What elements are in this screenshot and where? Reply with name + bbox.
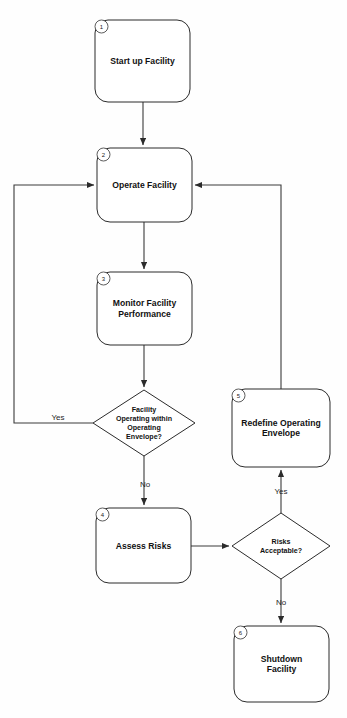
node-label-line: Redefine Operating	[241, 418, 320, 428]
process-node-1[interactable]: Start up Facility1	[95, 20, 190, 102]
decision-shape	[93, 390, 195, 456]
node-label-line: Envelope	[262, 428, 300, 438]
process-node-3[interactable]: Monitor FacilityPerformance3	[97, 272, 192, 345]
decision-label-line: Operating	[127, 424, 161, 432]
flowchart-svg: Start up Facility1Operate Facility2Monit…	[0, 0, 347, 718]
edge-label-yes-e4: Yes	[51, 413, 64, 422]
node-label-line: Performance	[118, 309, 171, 319]
decision-node-d2[interactable]: RisksAcceptable?	[232, 513, 330, 579]
edge-label-no-e5: No	[140, 480, 151, 489]
node-label-line: Operate Facility	[112, 180, 177, 190]
node-label-line: Monitor Facility	[113, 298, 177, 308]
edge-n5-to-n2	[195, 185, 281, 389]
decision-label-line: Risks	[272, 538, 291, 546]
process-node-6[interactable]: ShutdownFacility6	[234, 626, 329, 702]
edge-label-no-e9: No	[276, 598, 287, 607]
decision-shape	[232, 513, 330, 579]
node-label-line: Start up Facility	[110, 56, 175, 66]
decision-label-line: Envelope?	[126, 433, 162, 441]
node-label-line: Shutdown	[261, 654, 303, 664]
edge-d1-to-n2	[14, 185, 94, 423]
flowchart-canvas: Start up Facility1Operate Facility2Monit…	[0, 0, 347, 718]
nodes-layer: Start up Facility1Operate Facility2Monit…	[95, 20, 330, 702]
node-label-line: Assess Risks	[116, 541, 172, 551]
process-node-4[interactable]: Assess Risks4	[96, 508, 191, 583]
process-node-5[interactable]: Redefine OperatingEnvelope5	[232, 389, 330, 467]
edge-label-yes-e7: Yes	[274, 487, 287, 496]
decision-label-line: Acceptable?	[260, 547, 302, 555]
process-node-2[interactable]: Operate Facility2	[97, 148, 192, 222]
decision-label-line: Operating within	[116, 415, 172, 423]
decision-node-d1[interactable]: FacilityOperating withinOperatingEnvelop…	[93, 390, 195, 456]
node-label-line: Facility	[267, 664, 297, 674]
decision-label-line: Facility	[132, 406, 156, 414]
